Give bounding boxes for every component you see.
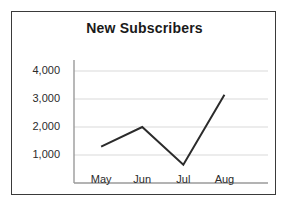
chart-container: New Subscribers 1,0002,0003,0004,000 May… [11, 11, 276, 195]
y-axis-tick-label: 2,000 [32, 120, 60, 132]
line-chart-plot [12, 12, 277, 196]
gridlines [74, 71, 268, 155]
x-axis-tick-label: Aug [215, 173, 235, 185]
data-series-line [101, 95, 224, 165]
y-axis-tick-label: 4,000 [32, 64, 60, 76]
y-axis-tick-label: 1,000 [32, 148, 60, 160]
chart-inner: New Subscribers 1,0002,0003,0004,000 May… [12, 12, 275, 194]
y-axis-tick-label: 3,000 [32, 92, 60, 104]
x-axis-tick-label: Jul [176, 173, 190, 185]
x-axis-tick-label: May [91, 173, 112, 185]
x-axis-tick-label: Jun [133, 173, 151, 185]
